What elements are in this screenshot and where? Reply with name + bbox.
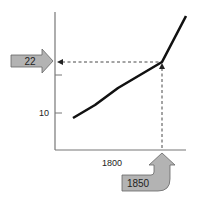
data-line	[73, 16, 186, 118]
y-tick-label-10: 10	[39, 108, 49, 118]
callout-1850-label: 1850	[127, 178, 150, 189]
callout-1850: 1850	[122, 153, 175, 191]
arrowhead-left-icon	[57, 59, 63, 65]
callout-22: 22	[11, 49, 53, 73]
x-tick-label-1800: 1800	[102, 158, 122, 168]
callout-22-label: 22	[24, 56, 36, 67]
line-chart: 10 1800 22 1850	[0, 0, 199, 205]
